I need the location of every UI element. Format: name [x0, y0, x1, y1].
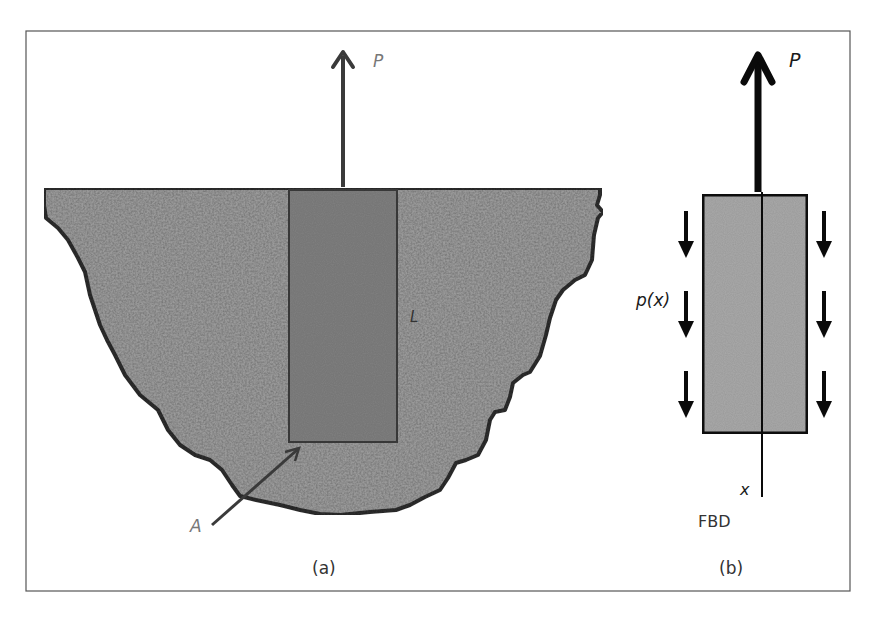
distributed-load-arrows-right — [816, 211, 832, 418]
pile-b — [702, 194, 808, 434]
fbd-label: FBD — [698, 512, 731, 531]
caption-b: (b) — [719, 558, 743, 578]
panel-a: P L A (a) — [44, 51, 603, 578]
area-label: A — [189, 516, 202, 536]
axis-label-x: x — [739, 480, 750, 499]
force-label-b: P — [789, 49, 801, 71]
figure-canvas: P L A (a) P — [0, 0, 874, 617]
distributed-load-arrows-left — [678, 211, 694, 418]
force-label-a: P — [373, 51, 384, 71]
distributed-load-label: p(x) — [635, 290, 670, 310]
caption-a: (a) — [312, 558, 336, 578]
panel-b: P p(x) x FBD — [635, 49, 832, 578]
force-arrow-a — [333, 52, 353, 187]
force-arrow-b — [744, 55, 772, 192]
length-label: L — [410, 308, 418, 326]
pile-a — [288, 189, 398, 443]
pile-in-soil-figure: P L A (a) P — [0, 0, 874, 617]
